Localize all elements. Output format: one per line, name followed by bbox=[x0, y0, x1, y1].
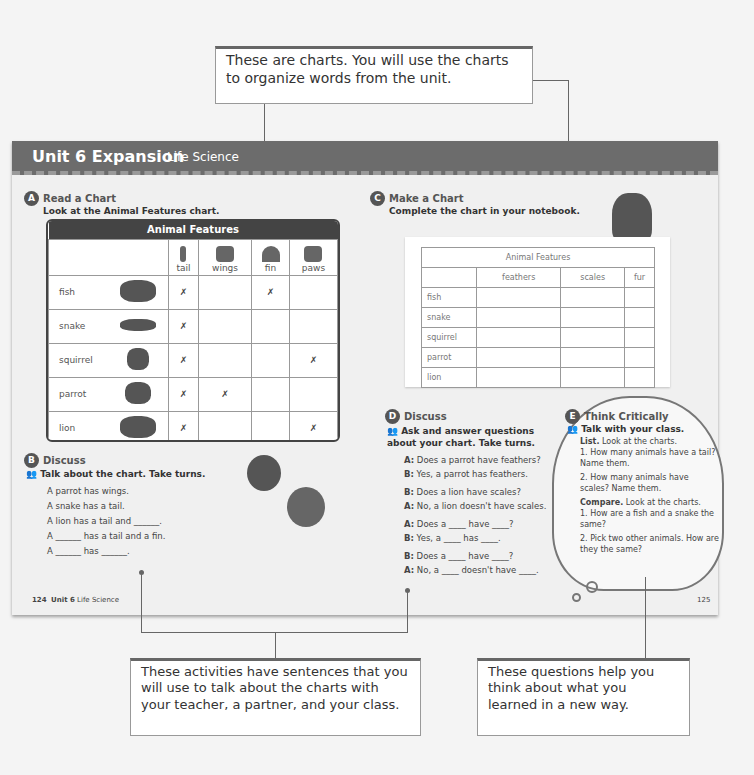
section-e-instruction: 👥 Talk with your class. bbox=[567, 424, 684, 434]
section-badge: C bbox=[370, 191, 385, 206]
mark-cell bbox=[289, 275, 337, 309]
sentence-line: A ______ has ______. bbox=[47, 544, 165, 559]
column-wings: wings bbox=[198, 239, 251, 275]
sentence-line: A lion has a tail and ______. bbox=[47, 514, 165, 529]
chart-header-row: tail wings fin paws bbox=[49, 239, 338, 275]
question-item: 1. How many animals have a tail? Name th… bbox=[580, 447, 720, 469]
question-item: 2. Pick two other animals. How are they … bbox=[580, 533, 720, 555]
mark-cell bbox=[252, 377, 290, 411]
connector-line bbox=[533, 80, 569, 81]
parrot-icon bbox=[125, 382, 151, 404]
mark-cell: ✗ bbox=[169, 377, 199, 411]
section-title-text: Discuss bbox=[404, 411, 447, 422]
dialog-line: A: Does a ____ have ____? bbox=[404, 517, 546, 531]
animal-name: snake bbox=[49, 309, 109, 343]
section-badge: A bbox=[24, 191, 39, 206]
mark-cell bbox=[252, 343, 290, 377]
mark-cell bbox=[252, 411, 290, 442]
dialog-line: A: No, a ____ doesn't have ____. bbox=[404, 563, 546, 577]
tail-icon bbox=[180, 246, 186, 262]
animal-name: lion bbox=[49, 411, 109, 442]
table-row: parrot bbox=[422, 348, 655, 368]
row-label: squirrel bbox=[422, 328, 477, 348]
column-tail: tail bbox=[169, 239, 199, 275]
sentence-line: A ______ has a tail and a fin. bbox=[47, 529, 165, 544]
mark-cell bbox=[198, 275, 251, 309]
mark-cell: ✗ bbox=[169, 309, 199, 343]
pair-icon: 👥 bbox=[26, 469, 40, 479]
section-title-text: Think Critically bbox=[584, 411, 669, 422]
mark-cell bbox=[289, 377, 337, 411]
mark-cell: ✗ bbox=[169, 275, 199, 309]
table-row: snake ✗ bbox=[49, 309, 338, 343]
section-e-title: EThink Critically bbox=[565, 409, 669, 424]
thought-bubble-small bbox=[586, 581, 598, 593]
squirrel-icon bbox=[127, 348, 149, 370]
page-footer-left: 124 Unit 6 Life Science bbox=[32, 596, 119, 604]
section-badge: B bbox=[24, 453, 39, 468]
question-item: 2. How many animals have scales? Name th… bbox=[580, 472, 720, 494]
row-label: fish bbox=[422, 288, 477, 308]
connector-line bbox=[407, 590, 408, 633]
mark-cell: ✗ bbox=[198, 377, 251, 411]
mark-cell bbox=[252, 309, 290, 343]
connector-line bbox=[645, 577, 646, 659]
table-row: fish ✗ ✗ bbox=[49, 275, 338, 309]
chart-caption: Animal Features bbox=[49, 221, 338, 239]
section-title-text: Make a Chart bbox=[389, 193, 464, 204]
unit-subject: Life Science bbox=[167, 150, 239, 164]
wing-icon bbox=[216, 246, 234, 262]
column-paws: paws bbox=[289, 239, 337, 275]
group-icon: 👥 bbox=[567, 424, 581, 434]
dialog-line: B: Does a ____ have ____? bbox=[404, 549, 546, 563]
table-row: lion bbox=[422, 368, 655, 388]
snake-icon bbox=[120, 319, 156, 331]
paw-icon bbox=[304, 246, 322, 262]
sentence-line: A snake has a tail. bbox=[47, 499, 165, 514]
table-row: snake bbox=[422, 308, 655, 328]
section-title-text: Read a Chart bbox=[43, 193, 116, 204]
callout-charts: These are charts. You will use the chart… bbox=[215, 46, 533, 104]
mark-cell: ✗ bbox=[169, 411, 199, 442]
page-number-right: 125 bbox=[697, 596, 710, 604]
mark-cell: ✗ bbox=[289, 411, 337, 442]
section-a-instruction: Look at the Animal Features chart. bbox=[43, 206, 219, 216]
section-d-title: DDiscuss bbox=[385, 409, 447, 424]
mark-cell bbox=[198, 411, 251, 442]
column-header: fur bbox=[624, 268, 654, 288]
section-badge: E bbox=[565, 409, 580, 424]
unit-header-band: Unit 6 Expansion Life Science bbox=[12, 141, 718, 175]
mark-cell: ✗ bbox=[169, 343, 199, 377]
section-a-title: ARead a Chart bbox=[24, 191, 116, 206]
connector-line bbox=[141, 573, 142, 633]
section-c-instruction: Complete the chart in your notebook. bbox=[389, 206, 580, 216]
textbook-spread: Unit 6 Expansion Life Science ARead a Ch… bbox=[12, 141, 718, 615]
dialog: A: Does a parrot have feathers? B: Yes, … bbox=[404, 453, 546, 577]
mark-cell bbox=[289, 309, 337, 343]
connector-line bbox=[275, 632, 276, 659]
animal-features-chart: Animal Features tail wings fin paws fish… bbox=[46, 219, 340, 442]
sentence-line: A parrot has wings. bbox=[47, 484, 165, 499]
table-row: squirrel bbox=[422, 328, 655, 348]
sentence-frames: A parrot has wings. A snake has a tail. … bbox=[47, 484, 165, 559]
dialog-line: B: Yes, a parrot has feathers. bbox=[404, 467, 546, 481]
teacher-avatar bbox=[287, 487, 325, 527]
question-item: 1. How are a fish and a snake the same? bbox=[580, 508, 720, 530]
table-row: lion ✗ ✗ bbox=[49, 411, 338, 442]
callout-questions: These questions help you think about wha… bbox=[477, 658, 690, 736]
section-title-text: Discuss bbox=[43, 455, 86, 466]
mark-cell bbox=[198, 343, 251, 377]
section-d-instruction: 👥 Ask and answer questions about your ch… bbox=[387, 425, 547, 449]
row-label: snake bbox=[422, 308, 477, 328]
dialog-line: A: No, a lion doesn't have scales. bbox=[404, 499, 546, 513]
table-row: fish bbox=[422, 288, 655, 308]
column-header: feathers bbox=[477, 268, 561, 288]
column-header: scales bbox=[561, 268, 625, 288]
section-c-title: CMake a Chart bbox=[370, 191, 464, 206]
fish-icon bbox=[120, 280, 156, 302]
pair-icon: 👥 bbox=[387, 426, 401, 436]
animal-name: fish bbox=[49, 275, 109, 309]
column-fin: fin bbox=[252, 239, 290, 275]
row-label: lion bbox=[422, 368, 477, 388]
boy-avatar bbox=[247, 455, 281, 491]
